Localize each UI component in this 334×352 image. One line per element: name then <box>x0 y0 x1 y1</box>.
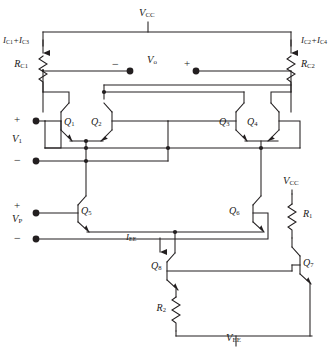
vo-plus-terminal <box>193 68 200 75</box>
circuit-schematic-figure: VCC VCC VEE IC1+IC3 IC2+IC4 IEE RC1 RC2 … <box>0 0 334 352</box>
label-vp: VP <box>12 214 22 225</box>
label-r2: R2 <box>157 303 166 314</box>
junction-tail <box>173 230 177 234</box>
label-q7: Q7 <box>303 258 314 269</box>
label-vo: Vo <box>147 55 157 66</box>
q6-emitter-lead <box>253 222 264 232</box>
junction-q1q2-emitter <box>84 139 88 143</box>
vo-minus-terminal <box>127 68 134 75</box>
label-vcc-top: VCC <box>139 8 155 19</box>
vp-minus-sign: − <box>14 232 21 244</box>
v1-plus-sign: + <box>14 114 20 125</box>
label-q5: Q5 <box>81 206 92 217</box>
junction-q3q4-emitter <box>259 146 263 150</box>
q3-collector-lead <box>236 103 244 112</box>
q1-collector-lead <box>61 103 69 112</box>
label-rc2: RC2 <box>301 59 315 70</box>
vp-plus-terminal <box>33 210 40 217</box>
label-q8: Q8 <box>151 261 162 272</box>
label-current-left: IC1+IC3 <box>3 36 29 46</box>
v1-plus-drop <box>45 121 61 148</box>
junction-q2-collector <box>102 90 106 94</box>
q5-emitter-lead <box>78 222 89 232</box>
q6-collector-lead <box>253 196 261 205</box>
vo-minus-sign: − <box>112 58 119 70</box>
label-q3: Q3 <box>219 117 230 128</box>
wire-layer <box>37 22 312 346</box>
label-rc1: RC1 <box>14 59 28 70</box>
q4-base-lead <box>279 121 300 148</box>
v1-minus-sign: − <box>14 154 21 166</box>
q2-collector-lead <box>104 103 112 112</box>
label-vee: VEE <box>226 333 241 344</box>
q7-emitter-lead <box>300 274 311 284</box>
q5-collector-lead <box>78 196 86 205</box>
q4-emitter-lead <box>268 130 279 141</box>
q4-collector-to-right-rail <box>271 92 291 103</box>
label-q1: Q1 <box>64 117 75 128</box>
label-r1: R1 <box>303 209 312 220</box>
label-current-tail: IEE <box>126 233 136 243</box>
r1-body <box>288 204 296 238</box>
q1-emitter-lead <box>61 130 72 141</box>
q2-emitter-lead <box>101 130 112 141</box>
r2-body <box>172 297 180 331</box>
q4-collector-lead <box>271 103 279 112</box>
junction-v1plus-bus <box>84 146 88 150</box>
q3-emitter-lead <box>236 130 247 141</box>
junction-v1minus-bus <box>84 159 88 163</box>
q8-collector-lead <box>167 253 175 262</box>
v1-minus-terminal <box>33 158 40 165</box>
vp-plus-sign: + <box>14 200 20 211</box>
label-v1: V1 <box>12 134 22 145</box>
q1-collector-to-left-rail <box>43 92 69 103</box>
vo-plus-sign: + <box>184 58 190 69</box>
q7-collector-lead <box>292 247 300 256</box>
label-vcc-right: VCC <box>283 176 299 187</box>
v1-plus-terminal <box>33 118 40 125</box>
label-q4: Q4 <box>247 117 258 128</box>
label-q6: Q6 <box>229 206 240 217</box>
vp-minus-terminal <box>33 236 40 243</box>
label-current-right: IC2+IC4 <box>301 36 327 46</box>
q6-base-to-vp-minus <box>37 213 268 239</box>
label-q2: Q2 <box>91 117 102 128</box>
junction-mid-bus <box>166 146 170 150</box>
terminal-dots <box>33 68 200 243</box>
